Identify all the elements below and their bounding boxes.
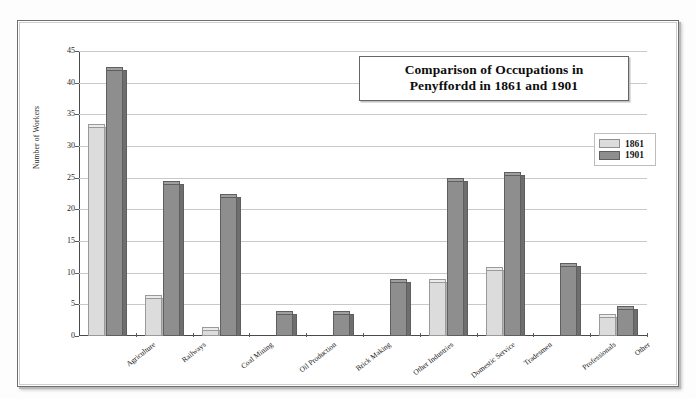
x-tick-mark	[533, 333, 534, 337]
bar-1901-tradesmen	[504, 175, 521, 337]
x-tick-label: Agriculture	[125, 340, 158, 368]
bar-1861-domestic-service	[429, 282, 446, 336]
bar-1901-oil-production	[276, 314, 293, 336]
bar-1861-other	[599, 317, 616, 336]
bar-1901-coal-mining	[220, 197, 237, 336]
bar-1861-agriculture	[88, 127, 105, 336]
legend-item-1901: 1901	[599, 150, 651, 160]
x-tick-mark	[136, 333, 137, 337]
x-tick-mark	[249, 333, 250, 337]
x-tick-mark	[306, 333, 307, 337]
y-tick-label: 10	[57, 269, 75, 277]
bar-1861-coal-mining	[202, 330, 219, 336]
page-title-line-1: Comparison of Occupations in	[368, 62, 620, 78]
y-tick-label: 5	[57, 300, 75, 308]
legend-swatch-1861	[599, 139, 620, 148]
y-tick-label: 25	[57, 174, 75, 182]
y-tick-label: 15	[57, 237, 75, 245]
x-tick-mark	[590, 333, 591, 337]
chart-plot-area: Number of Workers 051015202530354045 Agr…	[18, 21, 678, 386]
bar-1861-tradesmen	[486, 270, 503, 337]
bar-1901-brick-making	[333, 314, 350, 336]
y-tick-label: 35	[57, 110, 75, 118]
x-tick-label: Other Industries	[412, 340, 456, 377]
x-tick-label: Railways	[180, 340, 208, 364]
chart-legend: 1861 1901	[594, 133, 656, 166]
y-tick-label: 45	[57, 47, 75, 55]
y-axis-label: Number of Workers	[32, 106, 41, 169]
y-tick-label: 0	[57, 332, 75, 340]
bar-1901-railways	[163, 184, 180, 336]
x-tick-mark	[420, 333, 421, 337]
x-tick-label: Professionals	[580, 340, 617, 372]
bar-1861-railways	[145, 298, 162, 336]
bar-1901-other-industries	[390, 282, 407, 336]
bar-1901-other	[617, 309, 634, 336]
bar-1901-domestic-service	[447, 181, 464, 336]
chart-title-box: Comparison of Occupations in Penyffordd …	[359, 56, 629, 101]
x-tick-label: Coal Mining	[239, 340, 275, 371]
page-frame: Number of Workers 051015202530354045 Agr…	[17, 20, 679, 387]
legend-label-1901: 1901	[625, 150, 644, 160]
x-tick-mark	[477, 333, 478, 337]
legend-swatch-1901	[599, 151, 620, 160]
x-tick-mark	[193, 333, 194, 337]
legend-item-1861: 1861	[599, 139, 651, 149]
x-tick-mark	[363, 333, 364, 337]
legend-label-1861: 1861	[625, 139, 644, 149]
y-tick-label: 30	[57, 142, 75, 150]
x-tick-label: Oil Production	[297, 340, 338, 374]
bar-1901-professionals	[560, 266, 577, 336]
x-tick-label: Other	[632, 340, 651, 358]
y-tick-label: 20	[57, 205, 75, 213]
chart-page: Number of Workers 051015202530354045 Agr…	[0, 0, 696, 399]
x-tick-label: Domestic Service	[469, 340, 516, 380]
y-tick-label: 40	[57, 79, 75, 87]
x-tick-label: Brick Making	[353, 340, 392, 373]
x-tick-label: Tradesmen	[522, 340, 554, 367]
bar-1901-agriculture	[106, 70, 123, 336]
x-tick-mark	[647, 333, 648, 337]
y-tick-mark	[75, 336, 79, 337]
page-title-line-2: Penyffordd in 1861 and 1901	[368, 78, 620, 94]
